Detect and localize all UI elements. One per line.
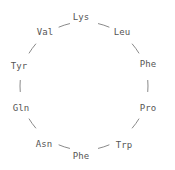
peptide-bond <box>59 145 70 148</box>
bond-group <box>20 24 148 149</box>
cyclic-peptide-diagram: LysLeuPheProTrpPheAsnGlnTyrVal <box>0 0 175 170</box>
residue-label-val-10: Val <box>36 27 54 37</box>
peptide-bond <box>132 44 139 53</box>
residue-label-tyr-9: Tyr <box>10 61 28 71</box>
residue-label-trp-5: Trp <box>115 140 133 150</box>
peptide-bond <box>29 119 36 128</box>
residue-label-lys-1: Lys <box>72 12 90 22</box>
peptide-bond <box>29 44 36 53</box>
peptide-bond <box>132 119 139 128</box>
residue-label-leu-2: Leu <box>113 27 131 37</box>
residue-label-asn-7: Asn <box>35 139 53 149</box>
peptide-bond <box>98 24 109 27</box>
peptide-bond <box>59 24 70 27</box>
peptide-bond <box>98 145 109 148</box>
residue-label-phe-6: Phe <box>72 151 90 161</box>
residue-label-phe-3: Phe <box>139 59 157 69</box>
residue-label-pro-4: Pro <box>139 103 157 113</box>
residue-label-gln-8: Gln <box>12 103 30 113</box>
peptide-bond-ring <box>0 0 175 170</box>
